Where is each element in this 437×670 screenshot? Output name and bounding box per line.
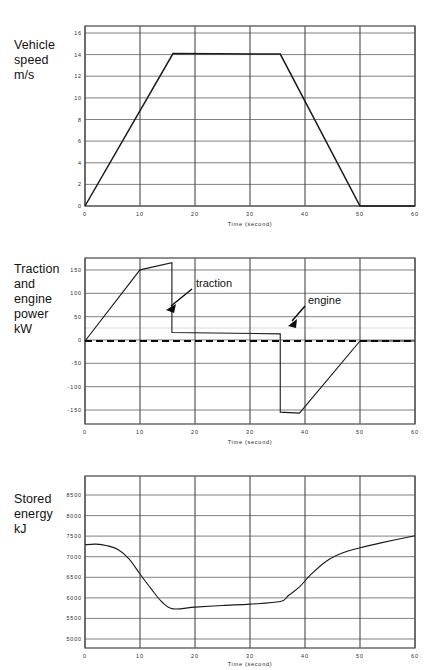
y-tick: 14 [74,52,82,58]
x-tick: 50 [356,429,364,435]
chart-traction-engine-power-plot: 150 100 50 0 -50 -100 -150 0 10 20 30 40… [0,248,437,448]
x-tick: 20 [191,653,199,659]
y-tick: -150 [68,407,82,413]
y-tick: 16 [74,30,82,36]
y-tick: 8000 [66,513,82,519]
y-tick: 4 [78,160,82,166]
y-tick: 50 [74,314,82,320]
chart-vehicle-speed-xlabel: Time (second) [228,221,273,227]
annotation-traction-label: traction [196,277,232,289]
gridlines-vertical [85,26,415,206]
chart-stored-energy: Stored energy kJ 8500 8000 7500 7000 [0,462,437,667]
x-tick: 60 [411,211,419,217]
x-tick: 40 [301,653,309,659]
y-tick: 100 [70,290,82,296]
x-tick: 30 [246,429,254,435]
chart-stored-energy-plot: 8500 8000 7500 7000 6500 6000 5500 5000 … [0,462,437,667]
x-tick: 10 [136,211,144,217]
chart-vehicle-speed: Vehicle speed m/s 16 14 12 [0,18,437,233]
x-tick: 30 [246,211,254,217]
x-tick-labels: 0 10 20 30 40 50 60 [83,653,419,659]
y-tick: 2 [78,181,82,187]
gridlines-vertical [85,476,415,648]
x-tick: 40 [301,429,309,435]
y-tick: -50 [72,360,83,366]
y-tick: -100 [68,384,82,390]
x-tick: 0 [83,653,87,659]
chart-vehicle-speed-plot: 16 14 12 10 8 6 4 2 0 0 10 20 30 40 50 6… [0,18,437,233]
x-tick-labels: 0 10 20 30 40 50 60 [83,211,419,217]
x-tick: 20 [191,211,199,217]
y-tick-labels: 16 14 12 10 8 6 4 2 0 [74,30,82,209]
x-tick: 50 [356,653,364,659]
y-tick: 8 [78,117,82,123]
y-tick: 0 [78,203,82,209]
chart-traction-engine-power: Traction and engine power kW 150 100 50 [0,248,437,448]
annotation-engine: engine [288,294,341,328]
y-tick: 6 [78,138,82,144]
y-tick: 0 [78,337,82,343]
y-tick: 7500 [66,533,82,539]
y-tick: 6000 [66,595,82,601]
x-tick: 30 [246,653,254,659]
annotation-engine-label: engine [308,294,341,306]
x-tick: 0 [83,211,87,217]
chart-stored-energy-xlabel: Time (second) [228,661,273,667]
y-tick: 150 [70,267,82,273]
chart-traction-engine-power-xlabel: Time (second) [228,439,273,445]
annotation-traction: traction [166,277,232,313]
x-tick: 10 [136,653,144,659]
y-tick: 10 [74,95,82,101]
x-tick: 50 [356,211,364,217]
y-tick: 6500 [66,574,82,580]
x-tick: 20 [191,429,199,435]
x-tick-labels: 0 10 20 30 40 50 60 [83,429,419,435]
x-tick: 10 [136,429,144,435]
y-tick: 8500 [66,492,82,498]
x-tick: 0 [83,429,87,435]
y-tick: 5000 [66,636,82,642]
x-tick: 40 [301,211,309,217]
y-tick: 12 [74,73,82,79]
x-tick: 60 [411,653,419,659]
y-tick-labels: 8500 8000 7500 7000 6500 6000 5500 5000 [66,492,82,642]
y-tick-labels: 150 100 50 0 -50 -100 -150 [68,267,82,413]
x-tick: 60 [411,429,419,435]
y-tick: 5500 [66,615,82,621]
y-tick: 7000 [66,554,82,560]
